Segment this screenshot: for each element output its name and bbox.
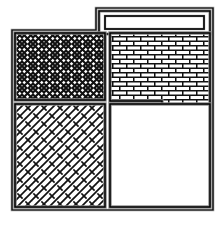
diagonal-fill bbox=[15, 104, 105, 207]
region-top-bar[interactable] bbox=[99, 11, 210, 34]
region-upper-left[interactable] bbox=[15, 33, 105, 100]
top-bar-inner-void bbox=[105, 16, 204, 29]
region-lower-left[interactable] bbox=[15, 104, 105, 207]
herringbone-fill bbox=[15, 33, 105, 100]
masonry-plan-svg: Masonry pattern layout plan bbox=[0, 0, 224, 228]
figure-canvas: Masonry pattern layout plan bbox=[0, 0, 224, 228]
region-lower-right[interactable] bbox=[110, 104, 210, 207]
blank-fill bbox=[110, 104, 210, 207]
